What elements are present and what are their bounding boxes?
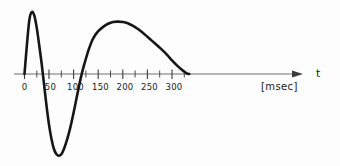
tick-label-0: 0	[22, 82, 28, 92]
tick-label-100: 100	[67, 82, 84, 92]
tick-label-250: 250	[141, 82, 158, 92]
tick-label-300: 300	[165, 82, 182, 92]
axis-unit-label: [msec]	[261, 81, 298, 92]
tick-label-150: 150	[92, 82, 109, 92]
tick-label-200: 200	[116, 82, 133, 92]
waveform-figure: 0 50 100 150 200 250 300 [msec] t	[0, 0, 340, 166]
axis-variable-label: t	[316, 67, 320, 80]
arrow-right-icon	[292, 70, 303, 77]
tick-label-50: 50	[45, 82, 56, 92]
